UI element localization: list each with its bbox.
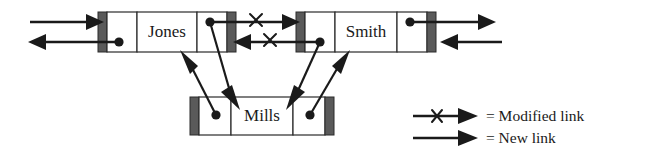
legend-label-new: = New link <box>486 129 556 146</box>
node-label-jones: Jones <box>148 22 186 41</box>
link-ext-right-in <box>440 34 502 50</box>
jones-right-cap <box>227 12 236 52</box>
legend-label-modified: = Modified link <box>486 107 585 124</box>
arrowhead-right <box>478 14 496 30</box>
legend-item-modified: = Modified link <box>413 107 585 124</box>
mills-right-cap <box>325 97 334 135</box>
legend-item-new: = New link <box>413 129 556 146</box>
jones-prev-cell <box>107 12 137 52</box>
legend: = Modified link = New link <box>413 107 585 146</box>
node-jones[interactable]: Jones <box>98 12 236 52</box>
arrowhead-left <box>28 34 46 50</box>
smith-left-cap <box>296 12 305 52</box>
link-ext-left-in <box>30 14 104 30</box>
arrowhead-up-right <box>332 50 350 74</box>
jones-left-cap <box>98 12 107 52</box>
linked-list-diagram: Jones Smith Mills <box>0 0 647 154</box>
mills-left-cap <box>190 97 199 135</box>
node-label-mills: Mills <box>244 106 280 125</box>
modified-link-x-mark <box>250 14 262 26</box>
modified-link-x-mark <box>264 34 276 46</box>
arrowhead-up-left <box>180 50 198 74</box>
smith-right-cap <box>427 12 436 52</box>
node-mills[interactable]: Mills <box>190 97 334 135</box>
legend-modified-arrowhead-icon <box>458 108 478 124</box>
node-label-smith: Smith <box>346 22 387 41</box>
arrowhead-left <box>440 34 458 50</box>
legend-new-arrowhead-icon <box>458 130 478 146</box>
diagram-canvas: Jones Smith Mills <box>0 0 647 154</box>
